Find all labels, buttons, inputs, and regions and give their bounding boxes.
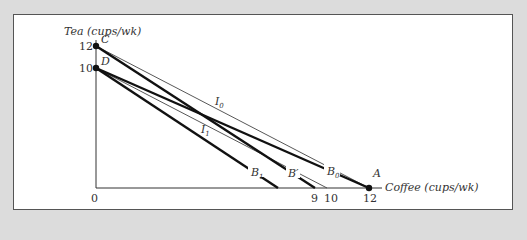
x-tick-10: 10 (324, 192, 338, 205)
label-B0: B0 (327, 165, 340, 180)
label-I1: I1 (201, 123, 210, 138)
x-axis-label: Coffee (cups/wk) (385, 181, 479, 194)
point-D (93, 65, 99, 71)
y-tick-12: 12 (79, 40, 93, 53)
y-tick-10: 10 (79, 62, 93, 75)
label-A: A (373, 167, 381, 180)
label-Bprime: B′ (288, 167, 299, 180)
point-A (366, 185, 372, 191)
x-tick-9: 9 (311, 192, 318, 205)
label-I0: I0 (215, 95, 224, 110)
x-tick-12: 12 (363, 192, 377, 205)
label-B1: B1 (251, 166, 264, 181)
label-D: D (101, 55, 110, 68)
label-C: C (101, 33, 109, 46)
x-tick-0: 0 (91, 192, 98, 205)
point-C (93, 43, 99, 49)
